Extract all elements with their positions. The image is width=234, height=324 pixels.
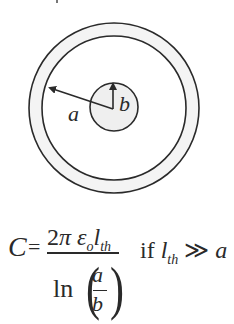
- condition-prefix: if: [140, 237, 161, 263]
- formula-condition: if lth ≫ a: [140, 238, 227, 262]
- equals-sign: =: [28, 236, 40, 258]
- epsilon-symbol: ε: [77, 224, 86, 250]
- formula-numerator: 2π εolth: [47, 225, 111, 249]
- inner-conductor: [90, 83, 138, 131]
- much-greater-than: ≫: [178, 237, 215, 263]
- stray-mark: [56, 0, 58, 3]
- inner-fraction-top: a: [92, 264, 103, 286]
- right-paren: ): [110, 258, 124, 318]
- condition-rhs: a: [215, 237, 227, 263]
- numerator-coef: 2: [47, 224, 59, 250]
- label-b: b: [119, 93, 130, 115]
- capacitance-symbol: C: [8, 233, 27, 261]
- label-a: a: [68, 103, 79, 125]
- fraction-bar: [47, 252, 119, 254]
- pi-symbol: π: [59, 224, 71, 250]
- coaxial-diagram-figure: a b C = 2π εolth ln ( a b ) if lth ≫ a: [0, 0, 234, 324]
- ln-function: ln: [53, 276, 73, 302]
- condition-var-subscript: th: [167, 252, 178, 267]
- inner-fraction-bottom: b: [92, 293, 103, 315]
